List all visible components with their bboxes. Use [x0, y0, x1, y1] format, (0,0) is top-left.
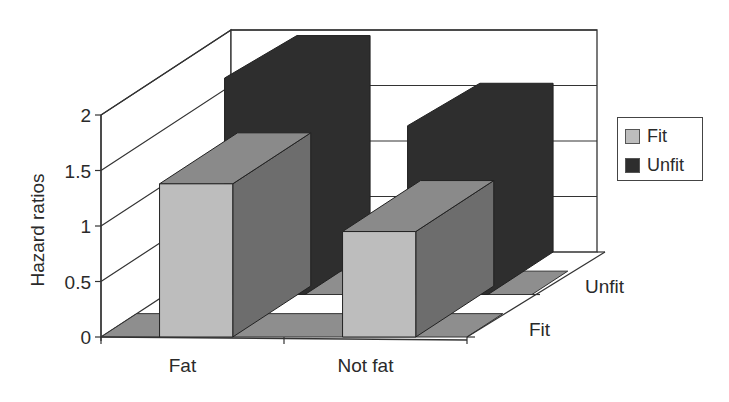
- bar-front: [160, 184, 233, 337]
- x-tick-label: Fat: [169, 355, 197, 376]
- legend-item-fit: Fit: [625, 126, 667, 147]
- y-tick-label: 1.5: [65, 161, 91, 182]
- depth-tick-label: Fit: [529, 319, 551, 340]
- hazard-ratio-3d-bar-chart: 00.511.52FatNot fatFitUnfit Hazard ratio…: [0, 0, 729, 402]
- x-tick-label: Not fat: [338, 355, 395, 376]
- legend-swatch-fit: [625, 129, 640, 144]
- y-tick-label: 1: [80, 216, 91, 237]
- y-tick-label: 0.5: [65, 272, 91, 293]
- legend-label-unfit: Unfit: [647, 155, 684, 176]
- bar-front: [343, 232, 416, 337]
- depth-tick-label: Unfit: [585, 276, 625, 297]
- legend: Fit Unfit: [617, 117, 703, 181]
- y-tick-label: 0: [80, 327, 91, 348]
- y-tick-label: 2: [80, 105, 91, 126]
- legend-item-unfit: Unfit: [625, 155, 684, 176]
- legend-label-fit: Fit: [647, 126, 667, 147]
- legend-swatch-unfit: [625, 158, 640, 173]
- y-axis-title: Hazard ratios: [27, 174, 48, 287]
